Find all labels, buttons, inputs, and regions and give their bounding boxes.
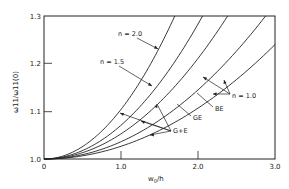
x-tick-label: 2.0 (192, 163, 203, 171)
curves (44, 16, 275, 159)
y-tick-label: 1.2 (30, 60, 41, 68)
label-g-plus-e: G+E (173, 127, 188, 135)
curve (44, 45, 275, 159)
x-tick-label: 3.0 (269, 163, 280, 171)
x-tick-label: 0 (42, 163, 46, 171)
y-tick-label: 1.1 (30, 108, 41, 116)
curve (44, 16, 266, 159)
label-n-1-0: n = 1.0 (232, 92, 256, 100)
y-axis (44, 63, 52, 111)
y-axis-title: ω11/ω11(0) (12, 71, 20, 113)
label-n-2-0: n = 2.0 (118, 30, 142, 38)
chart: 01.02.03.01.01.11.21.3 n = 2.0 n = 1.5 n… (0, 0, 289, 189)
label-n-1-5: n = 1.5 (100, 58, 124, 66)
label-ge: GE (193, 114, 202, 122)
x-tick-label: 1.0 (115, 163, 126, 171)
y-tick-label: 1.0 (30, 156, 41, 164)
plot-frame (44, 16, 275, 159)
y-tick-label: 1.3 (30, 13, 41, 21)
label-be: BE (215, 105, 224, 113)
x-axis (121, 151, 198, 159)
x-axis-title: w0/h (148, 175, 164, 184)
curve (44, 16, 175, 159)
